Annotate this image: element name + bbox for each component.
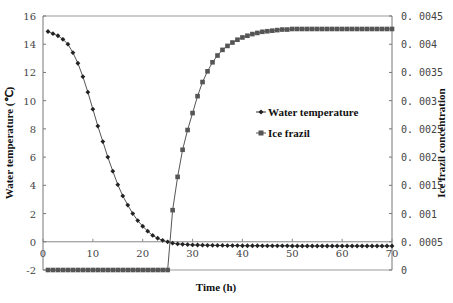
diamond-marker-icon [350, 244, 355, 249]
diamond-marker-icon [220, 243, 225, 248]
square-marker-icon [280, 27, 285, 32]
diamond-marker-icon [270, 243, 275, 248]
square-marker-icon [190, 111, 195, 116]
x-tick-label: 40 [236, 248, 249, 259]
square-marker-icon [195, 94, 200, 99]
square-marker-icon [180, 147, 185, 152]
left-y-axis-title: Water temperature (℃) [3, 86, 16, 199]
square-marker-icon [380, 27, 385, 32]
square-marker-icon [71, 268, 76, 273]
diamond-marker-icon [360, 244, 365, 249]
left-tick-label: 2 [30, 209, 36, 220]
diamond-marker-icon [380, 244, 385, 249]
diamond-marker-icon [260, 243, 265, 248]
x-tick-label: 70 [386, 248, 399, 259]
square-marker-icon [259, 131, 264, 136]
square-marker-icon [360, 27, 365, 32]
square-marker-icon [155, 268, 160, 273]
left-tick-label: 10 [23, 96, 36, 107]
square-marker-icon [265, 29, 270, 34]
left-tick-label: 6 [30, 152, 36, 163]
diamond-marker-icon [265, 243, 270, 248]
diamond-marker-icon [185, 242, 190, 247]
diamond-marker-icon [300, 244, 305, 249]
left-tick-label: 14 [23, 39, 36, 50]
square-marker-icon [125, 268, 130, 273]
diamond-marker-icon [320, 244, 325, 249]
right-tick-label: 0. 0035 [401, 67, 443, 78]
square-marker-icon [81, 268, 86, 273]
square-marker-icon [106, 268, 111, 273]
square-marker-icon [245, 33, 250, 38]
square-marker-icon [345, 27, 350, 32]
right-tick-label: 0. 0005 [401, 237, 443, 248]
square-marker-icon [250, 32, 255, 37]
square-marker-icon [165, 268, 170, 273]
square-marker-icon [135, 268, 140, 273]
series-water-temperature [46, 29, 395, 248]
diamond-marker-icon [46, 29, 51, 34]
square-marker-icon [101, 268, 106, 273]
diamond-marker-icon [155, 236, 160, 241]
square-marker-icon [185, 128, 190, 133]
legend-label: Ice frazil [268, 127, 310, 139]
square-marker-icon [205, 69, 210, 74]
diamond-marker-icon [315, 244, 320, 249]
square-marker-icon [210, 60, 215, 65]
diamond-marker-icon [370, 244, 375, 249]
square-marker-icon [320, 27, 325, 32]
square-marker-icon [365, 27, 370, 32]
square-marker-icon [51, 268, 56, 273]
x-tick-label: 50 [286, 248, 299, 259]
right-tick-label: 0. 002 [401, 152, 437, 163]
square-marker-icon [310, 27, 315, 32]
right-tick-label: 0. 0045 [401, 11, 443, 22]
left-tick-label: 8 [30, 124, 36, 135]
square-marker-icon [230, 40, 235, 45]
diamond-marker-icon [210, 243, 215, 248]
square-marker-icon [86, 268, 91, 273]
square-marker-icon [375, 27, 380, 32]
square-marker-icon [56, 268, 61, 273]
square-marker-icon [215, 53, 220, 58]
diamond-marker-icon [305, 244, 310, 249]
diamond-marker-icon [100, 139, 105, 144]
diamond-marker-icon [365, 244, 370, 249]
diamond-marker-icon [310, 244, 315, 249]
square-marker-icon [200, 80, 205, 85]
diamond-marker-icon [195, 243, 200, 248]
square-marker-icon [96, 268, 101, 273]
square-marker-icon [66, 268, 71, 273]
diamond-marker-icon [325, 244, 330, 249]
diamond-marker-icon [330, 244, 335, 249]
square-marker-icon [255, 31, 260, 36]
square-marker-icon [350, 27, 355, 32]
diamond-marker-icon [355, 244, 360, 249]
left-tick-label: -2 [26, 265, 36, 276]
square-marker-icon [76, 268, 81, 273]
square-marker-icon [290, 27, 295, 32]
square-marker-icon [325, 27, 330, 32]
square-marker-icon [170, 208, 175, 213]
square-marker-icon [140, 268, 145, 273]
square-marker-icon [225, 44, 230, 49]
diamond-marker-icon [110, 169, 115, 174]
square-marker-icon [285, 27, 290, 32]
left-tick-label: 0 [30, 237, 36, 248]
diamond-marker-icon [115, 182, 120, 187]
legend-label: Water temperature [268, 106, 358, 118]
x-axis-title: Time (h) [196, 281, 237, 294]
square-marker-icon [355, 27, 360, 32]
square-marker-icon [270, 28, 275, 33]
diamond-marker-icon [200, 243, 205, 248]
square-marker-icon [305, 27, 310, 32]
diamond-marker-icon [51, 31, 56, 36]
square-marker-icon [315, 27, 320, 32]
series-layer [46, 27, 395, 273]
x-tick-label: 10 [86, 248, 99, 259]
square-marker-icon [390, 27, 395, 32]
square-marker-icon [370, 27, 375, 32]
x-tick-label: 0 [40, 248, 46, 259]
x-tick-label: 30 [186, 248, 199, 259]
square-marker-icon [115, 268, 120, 273]
